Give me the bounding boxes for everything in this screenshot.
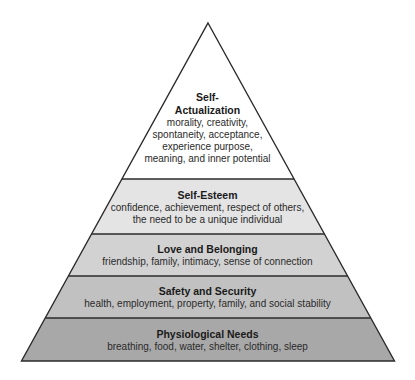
level-desc: experience purpose, (0, 141, 415, 153)
level-desc: confidence, achievement, respect of othe… (0, 202, 415, 214)
level-title: Love and Belonging (0, 243, 415, 256)
level-desc: health, employment, property, family, an… (0, 298, 415, 310)
level-title: Physiological Needs (0, 328, 415, 341)
level-self-actualization: Self- Actualization morality, creativity… (0, 91, 415, 165)
level-desc: spontaneity, acceptance, (0, 129, 415, 141)
level-desc: breathing, food, water, shelter, clothin… (0, 341, 415, 353)
level-love-belonging: Love and Belonging friendship, family, i… (0, 243, 415, 268)
level-desc: meaning, and inner potential (0, 153, 415, 165)
level-title: Self-Esteem (0, 189, 415, 202)
level-title: Safety and Security (0, 285, 415, 298)
level-desc: friendship, family, intimacy, sense of c… (0, 256, 415, 268)
level-desc: morality, creativity, (0, 117, 415, 129)
level-desc: the need to be a unique individual (0, 214, 415, 226)
level-safety-security: Safety and Security health, employment, … (0, 285, 415, 310)
level-self-esteem: Self-Esteem confidence, achievement, res… (0, 189, 415, 226)
level-physiological: Physiological Needs breathing, food, wat… (0, 328, 415, 353)
level-title: Self- (0, 91, 415, 104)
level-title: Actualization (0, 104, 415, 117)
